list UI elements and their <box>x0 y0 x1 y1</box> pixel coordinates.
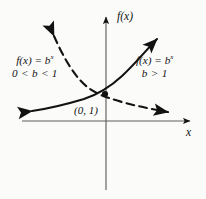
annotation-increasing-exponent: x <box>170 53 173 61</box>
x-axis-label: x <box>186 126 191 140</box>
annotation-increasing-function-text: f(x) = b <box>136 54 170 66</box>
annotation-increasing-function: f(x) = bx <box>136 54 173 67</box>
annotation-increasing-condition: b > 1 <box>136 67 173 80</box>
annotation-decreasing-function: f(x) = bx <box>12 54 58 67</box>
annotation-decreasing-exponent: x <box>50 53 53 61</box>
origin-point-label: (0, 1) <box>74 104 98 117</box>
intersection-point-marker <box>102 91 108 97</box>
annotation-decreasing-function-text: f(x) = b <box>16 54 50 66</box>
graph-canvas <box>0 0 206 199</box>
y-axis-label: f(x) <box>117 10 133 24</box>
exponential-graph-figure: f(x) x (0, 1) f(x) = bx 0 < b < 1 f(x) =… <box>0 0 206 199</box>
annotation-increasing-curve: f(x) = bx b > 1 <box>136 54 173 80</box>
annotation-decreasing-condition: 0 < b < 1 <box>12 67 58 80</box>
annotation-decreasing-curve: f(x) = bx 0 < b < 1 <box>12 54 58 80</box>
